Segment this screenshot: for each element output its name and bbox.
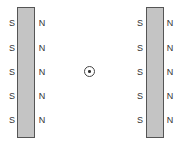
magnet-diagram: S S S S S N N N N N S S S S S N N N N N <box>0 0 180 141</box>
right-magnet-n-label: N <box>165 115 175 125</box>
right-magnet-n-label: N <box>165 43 175 53</box>
left-magnet-s-label: S <box>7 115 17 125</box>
left-magnet-s-label: S <box>7 91 17 101</box>
right-magnet-n-label: N <box>165 67 175 77</box>
left-magnet-n-label: N <box>37 43 47 53</box>
right-magnet-s-label: S <box>135 18 145 28</box>
left-magnet-n-label: N <box>37 115 47 125</box>
right-magnet-s-label: S <box>135 43 145 53</box>
left-magnet-n-label: N <box>37 67 47 77</box>
right-magnet-s-label: S <box>135 115 145 125</box>
right-magnet-n-label: N <box>165 18 175 28</box>
right-magnet-s-label: S <box>135 91 145 101</box>
left-magnet-n-label: N <box>37 18 47 28</box>
right-magnet-n-label: N <box>165 91 175 101</box>
current-out-of-page-icon <box>84 66 95 77</box>
left-magnet-n-label: N <box>37 91 47 101</box>
left-magnet-bar <box>17 7 35 138</box>
left-magnet-s-label: S <box>7 67 17 77</box>
right-magnet-s-label: S <box>135 67 145 77</box>
left-magnet-s-label: S <box>7 18 17 28</box>
left-magnet-s-label: S <box>7 43 17 53</box>
right-magnet-bar <box>146 7 164 138</box>
